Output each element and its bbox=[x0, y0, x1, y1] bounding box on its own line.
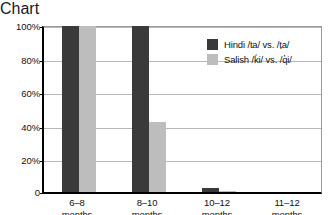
y-axis: 100% 80% 60% 40% 20% 0 bbox=[0, 18, 40, 215]
x-category-8-10-months: 8–10 months bbox=[112, 197, 182, 215]
plot-area: Hindi /ta/ vs. /ṭa/ Salish /ḱi/ vs. /q̓i… bbox=[42, 26, 322, 194]
y-tick-mark bbox=[40, 193, 44, 194]
legend-swatch-dark-icon bbox=[207, 39, 218, 50]
bar-hindi-6-8-months bbox=[62, 26, 79, 192]
legend-label-salish: Salish /ḱi/ vs. /q̓i/ bbox=[224, 54, 292, 65]
y-tick-label: 60% bbox=[2, 89, 40, 99]
bar-group-8-10-months bbox=[132, 27, 166, 192]
bar-chart: 100% 80% 60% 40% 20% 0 bbox=[0, 18, 329, 215]
y-tick-label: 0 bbox=[2, 188, 40, 198]
x-category-line2: months bbox=[182, 209, 252, 215]
plot-inner: Hindi /ta/ vs. /ṭa/ Salish /ḱi/ vs. /q̓i… bbox=[44, 27, 321, 192]
y-tick-label: 100% bbox=[2, 22, 40, 32]
x-category-6-8-months: 6–8 months bbox=[42, 197, 112, 215]
y-tick-label: 20% bbox=[2, 156, 40, 166]
bar-salish-6-8-months bbox=[79, 26, 96, 192]
bar-salish-10-12-months bbox=[219, 191, 236, 192]
x-category-11-12-months: 11–12 months bbox=[252, 197, 322, 215]
x-category-line1: 11–12 bbox=[274, 197, 299, 208]
x-category-10-12-months: 10–12 months bbox=[182, 197, 252, 215]
legend-entry-hindi: Hindi /ta/ vs. /ṭa/ bbox=[207, 38, 325, 51]
x-category-line2: months bbox=[42, 209, 112, 215]
x-category-line1: 10–12 bbox=[204, 197, 230, 208]
legend: Hindi /ta/ vs. /ṭa/ Salish /ḱi/ vs. /q̓i… bbox=[207, 38, 325, 68]
bar-hindi-10-12-months bbox=[202, 188, 219, 192]
legend-entry-salish: Salish /ḱi/ vs. /q̓i/ bbox=[207, 53, 325, 66]
x-category-line1: 6–8 bbox=[69, 197, 85, 208]
x-category-line2: months bbox=[252, 209, 322, 215]
bar-group-6-8-months bbox=[62, 27, 96, 192]
legend-label-hindi: Hindi /ta/ vs. /ṭa/ bbox=[224, 39, 289, 50]
y-tick-label: 80% bbox=[2, 56, 40, 66]
legend-swatch-light-icon bbox=[207, 54, 218, 65]
x-category-line2: months bbox=[112, 209, 182, 215]
bar-hindi-8-10-months bbox=[132, 26, 149, 192]
bar-salish-8-10-months bbox=[149, 122, 166, 192]
x-axis: 6–8 months 8–10 months 10–12 months 11–1… bbox=[42, 197, 322, 215]
y-tick-label: 40% bbox=[2, 123, 40, 133]
x-category-line1: 8–10 bbox=[137, 197, 158, 208]
